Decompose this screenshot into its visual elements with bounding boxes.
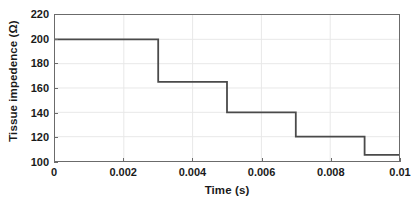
y-tick-mark — [54, 137, 58, 138]
plot-area — [54, 14, 400, 162]
y-tick-label: 180 — [18, 57, 49, 69]
step-line — [55, 39, 399, 155]
y-tick-label: 220 — [18, 8, 49, 20]
y-tick-mark — [54, 113, 58, 114]
x-tick-label: 0.01 — [389, 166, 410, 178]
x-tick-label: 0 — [51, 166, 57, 178]
y-tick-label: 160 — [18, 82, 49, 94]
x-tick-label: 0.008 — [317, 166, 345, 178]
y-tick-label: 200 — [18, 33, 49, 45]
x-axis-title: Time (s) — [54, 184, 400, 196]
x-tick-mark — [54, 158, 55, 162]
y-tick-label: 100 — [18, 156, 49, 168]
x-tick-mark — [192, 158, 193, 162]
y-tick-mark — [54, 39, 58, 40]
x-tick-label: 0.004 — [179, 166, 207, 178]
y-tick-mark — [54, 162, 58, 163]
x-tick-label: 0.006 — [248, 166, 276, 178]
series-tissue-impedence — [55, 15, 399, 161]
y-tick-mark — [54, 63, 58, 64]
y-tick-mark — [54, 14, 58, 15]
chart-figure: Tissue impedence (Ω) 1001201401601802002… — [0, 0, 417, 207]
y-tick-mark — [54, 88, 58, 89]
x-tick-mark — [123, 158, 124, 162]
x-tick-label: 0.002 — [109, 166, 137, 178]
x-tick-mark — [331, 158, 332, 162]
x-tick-mark — [262, 158, 263, 162]
y-tick-label: 140 — [18, 107, 49, 119]
x-tick-mark — [400, 158, 401, 162]
y-tick-label: 120 — [18, 131, 49, 143]
